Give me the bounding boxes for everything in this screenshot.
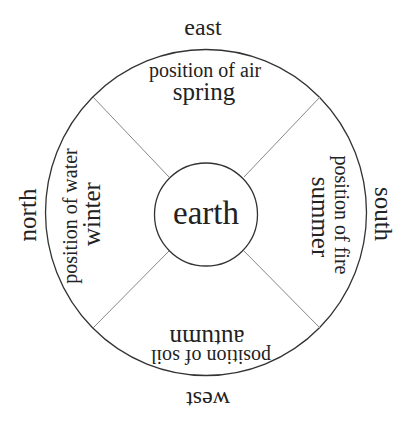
divider-upper-right xyxy=(244,97,320,177)
sector-left-season: winter xyxy=(78,181,105,246)
direction-right: south xyxy=(370,187,397,242)
direction-bottom: west xyxy=(186,387,230,413)
sector-bottom-season: autumn xyxy=(169,325,244,352)
sector-right-season: summer xyxy=(307,177,334,258)
divider-upper-left xyxy=(93,97,169,177)
sector-top-season: spring xyxy=(173,78,236,105)
center-label: earth xyxy=(173,195,239,231)
direction-left: north xyxy=(14,188,41,241)
divider-lower-left xyxy=(93,251,169,328)
divider-lower-right xyxy=(244,251,320,328)
elements-diagram: earth east position of air spring north … xyxy=(0,0,414,425)
direction-top: east xyxy=(184,14,222,40)
